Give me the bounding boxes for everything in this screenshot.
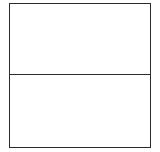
blank-two-row-table: [9, 3, 151, 148]
table-cell-bottom: [10, 75, 150, 147]
page-canvas: [0, 0, 160, 152]
table-row[interactable]: [10, 4, 150, 75]
table-cell-top: [10, 4, 150, 74]
table-row[interactable]: [10, 75, 150, 147]
